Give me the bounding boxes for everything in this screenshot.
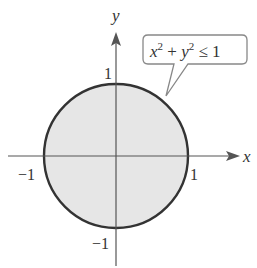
x-axis-label: x xyxy=(242,147,251,166)
x-tick-1: 1 xyxy=(190,166,198,183)
region-diagram: x y −1 1 1 −1 x2 + y2 ≤ 1 xyxy=(0,0,257,268)
y-tick-1: 1 xyxy=(104,65,112,82)
x-tick-neg1: −1 xyxy=(18,166,35,183)
inequality-callout: x2 + y2 ≤ 1 xyxy=(143,35,247,96)
y-axis-label: y xyxy=(110,6,120,25)
y-tick-neg1: −1 xyxy=(92,235,109,252)
